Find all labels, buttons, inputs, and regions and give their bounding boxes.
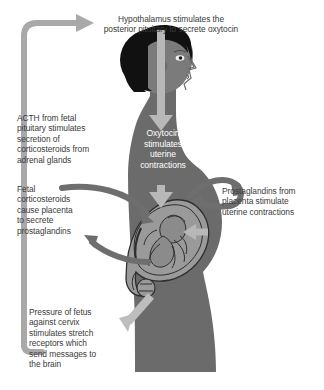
hypothalamus-label: Hypothalamus stimulates the posterior pi…	[66, 14, 276, 35]
prostaglandins-label: Prostaglandins from placenta stimulate u…	[222, 186, 322, 217]
feedback-loop-arrow	[24, 14, 94, 352]
acth-label: ACTH from fetal pituitary stimulates sec…	[17, 113, 129, 165]
childbirth-positive-feedback-diagram: Hypothalamus stimulates the posterior pi…	[0, 0, 324, 390]
fetal-corticosteroids-label: Fetal corticosteroids cause placenta to …	[17, 184, 117, 236]
oxytocin-label: Oxytocin stimulates uterine contractions	[124, 128, 202, 170]
cervix-pressure-label: Pressure of fetus against cervix stimula…	[29, 307, 137, 369]
